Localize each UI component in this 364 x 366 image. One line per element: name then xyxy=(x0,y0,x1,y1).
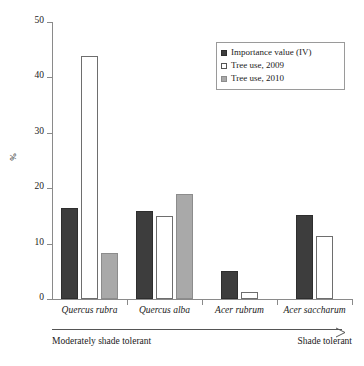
legend-label: Importance value (IV) xyxy=(231,48,311,57)
y-tick-label: 10 xyxy=(4,238,44,248)
bar-use2009-0 xyxy=(81,56,98,299)
bar-iv-3 xyxy=(296,215,313,299)
legend-item: Importance value (IV) xyxy=(221,46,340,59)
bar-use2010-0 xyxy=(101,253,118,299)
legend-label: Tree use, 2009 xyxy=(231,61,284,70)
bar-iv-1 xyxy=(136,211,153,299)
legend-swatch-icon xyxy=(221,76,227,82)
tolerance-right-label: Shade tolerant xyxy=(297,336,352,346)
y-axis-label: % xyxy=(8,150,18,164)
legend-swatch-icon xyxy=(221,50,227,56)
bar-use2009-2 xyxy=(241,292,258,299)
y-tick-mark xyxy=(47,299,52,300)
y-tick-label: 0 xyxy=(4,293,44,303)
x-group-separator-tick xyxy=(352,300,353,305)
arrow-right-icon xyxy=(336,324,346,335)
x-tick-label: Quercus alba xyxy=(127,305,202,315)
bar-use2009-1 xyxy=(156,216,173,299)
y-tick-label: 40 xyxy=(4,71,44,81)
chart-legend: Importance value (IV)Tree use, 2009Tree … xyxy=(216,42,345,90)
tolerance-left-label: Moderately shade tolerant xyxy=(52,336,151,346)
legend-item: Tree use, 2010 xyxy=(221,72,340,85)
legend-item: Tree use, 2009 xyxy=(221,59,340,72)
bar-chart-figure: % 50403020100 Quercus rubraQuercus albaA… xyxy=(0,0,364,366)
x-tick-label: Acer rubrum xyxy=(202,305,277,315)
bar-iv-2 xyxy=(221,271,238,299)
bar-use2009-3 xyxy=(316,236,333,299)
y-tick-label: 50 xyxy=(4,16,44,26)
bar-iv-0 xyxy=(61,208,78,299)
y-tick-label: 20 xyxy=(4,182,44,192)
tolerance-gradient-line xyxy=(52,329,342,330)
bar-use2010-1 xyxy=(176,194,193,299)
x-tick-label: Acer saccharum xyxy=(277,305,352,315)
legend-label: Tree use, 2010 xyxy=(231,74,284,83)
y-tick-label: 30 xyxy=(4,127,44,137)
legend-swatch-icon xyxy=(221,63,227,69)
x-tick-label: Quercus rubra xyxy=(52,305,127,315)
